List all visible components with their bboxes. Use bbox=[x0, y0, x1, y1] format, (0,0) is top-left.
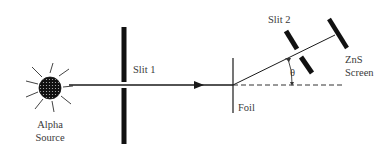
alpha-source bbox=[26, 63, 73, 112]
theta-label: θ bbox=[290, 67, 295, 78]
slit2-label: Slit 2 bbox=[268, 14, 290, 25]
slit1-label: Slit 1 bbox=[133, 64, 155, 75]
slit2-lower bbox=[301, 57, 312, 73]
slit1-bottom bbox=[122, 88, 127, 144]
slit1-top bbox=[122, 27, 127, 82]
foil-label: Foil bbox=[238, 102, 255, 113]
scattered-path bbox=[233, 35, 335, 85]
slit2-upper bbox=[286, 31, 297, 49]
alpha-source-label-1: Alpha bbox=[37, 119, 63, 130]
zns-screen bbox=[329, 19, 347, 48]
angle-arrow-top-icon bbox=[285, 58, 291, 62]
screen-label-1: ZnS bbox=[345, 54, 363, 65]
scattering-diagram: Alpha Source Slit 1 Foil Slit 2 ZnS Scre… bbox=[0, 0, 389, 150]
source-sphere-icon bbox=[39, 77, 61, 99]
alpha-source-label-2: Source bbox=[35, 132, 64, 143]
screen-label-2: Screen bbox=[345, 67, 374, 78]
beam-arrow-icon bbox=[194, 81, 204, 89]
